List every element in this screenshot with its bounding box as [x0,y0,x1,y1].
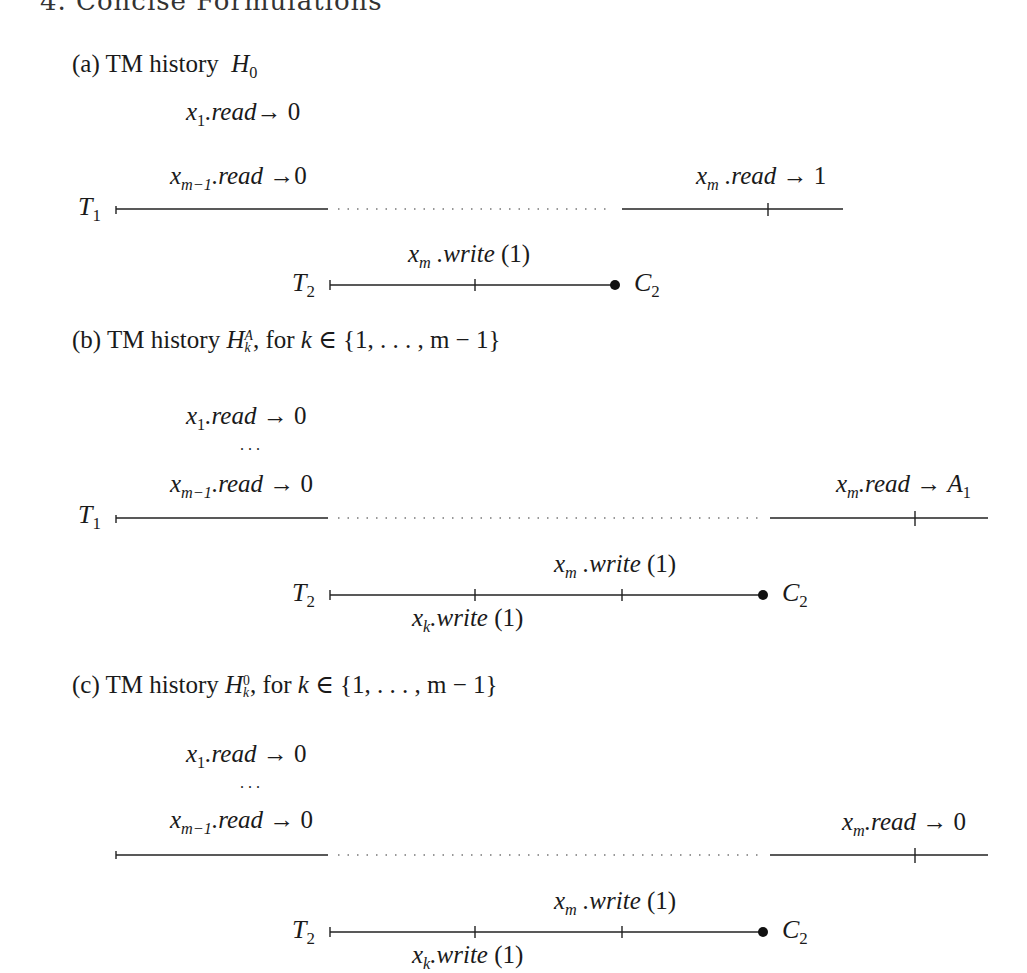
figure-c-op-xk-write: xk.write (1) [412,941,523,973]
figure-a-commit-label: C2 [634,268,660,302]
figure-b-op-x1-read: x1.read → 0 [186,402,306,435]
figure-a-op-xm1-read: xm−1.read →0 [170,162,307,195]
figure-c-commit-dot [758,927,768,937]
figure-b-t1-label: T1 [78,500,101,534]
figure-a-op-xm-read: xm .read → 1 [696,162,826,195]
figure-a-op-x1-read: x1.read→ 0 [186,98,300,131]
figure-a-commit-dot [610,280,620,290]
figure-a-t2-label: T2 [292,268,315,302]
figure-a-t1-label: T1 [78,192,101,226]
figure-b-ellipsis: . . . [240,436,260,454]
figure-b-op-xm-write: xm .write (1) [554,550,676,583]
figure-c-caption: (c) TM history H0k, for k ∈ {1, . . . , … [72,670,498,700]
figure-b-t2-label: T2 [292,578,315,612]
figure-b-commit-label: C2 [782,578,808,612]
caption-text: (a) TM history [72,50,219,77]
figure-c-ellipsis: . . . [240,774,260,792]
figure-b-t1-timeline [116,511,988,526]
figure-b-op-xm-read: xm.read → A1 [836,470,971,503]
figure-a-t2-timeline [330,279,615,291]
history-symbol: H0k [225,671,250,698]
figure-a-t1-timeline [116,203,843,216]
figure-a-op-xm-write: xm .write (1) [408,240,530,273]
figure-b-op-xk-write: xk.write (1) [412,604,523,637]
figure-a-caption: (a) TM history H0 [72,50,257,83]
caption-text: (c) TM history [72,671,219,698]
figure-c-op-xm-write: xm .write (1) [554,887,676,920]
figure-c-commit-label: C2 [782,915,808,949]
figure-b-t2-timeline [330,589,762,601]
figure-b-op-xm1-read: xm−1.read → 0 [170,470,313,503]
figure-c-op-x1-read: x1.read → 0 [186,740,306,773]
figure-c-t2-label: T2 [292,915,315,949]
caption-text: (b) TM history [72,326,220,353]
figure-c-t1-timeline [116,848,988,863]
figure-c-op-xm1-read: xm−1.read → 0 [170,806,313,839]
figure-c-op-xm-read: xm.read → 0 [842,808,966,841]
history-symbol: HAk [226,326,252,353]
figure-b-caption: (b) TM history HAk, for k ∈ {1, . . . , … [72,325,500,355]
figure-c-t2-timeline [330,926,762,938]
figure-b-commit-dot [758,590,768,600]
history-symbol: H0 [231,50,257,77]
